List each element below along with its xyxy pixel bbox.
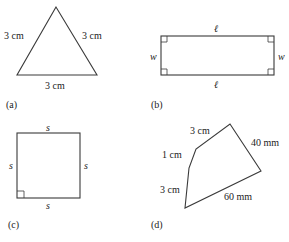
right-angle-icon <box>17 191 24 198</box>
triangle-shape <box>17 7 97 75</box>
caption-b: (b) <box>151 99 163 111</box>
pentagon-top-left-label: 3 cm <box>190 125 210 136</box>
figure-d-pentagon: 3 cm 40 mm 1 cm 3 cm 60 mm (d) <box>151 124 279 231</box>
geometry-figures: 3 cm 3 cm 3 cm (a) ℓ ℓ w w (b) s s s s (… <box>0 0 289 242</box>
triangle-left-label: 3 cm <box>4 30 24 41</box>
rectangle-shape <box>161 36 274 75</box>
pentagon-left-upper-label: 1 cm <box>162 149 182 160</box>
triangle-right-label: 3 cm <box>82 30 102 41</box>
figure-b-rectangle: ℓ ℓ w w (b) <box>150 23 285 111</box>
caption-d: (d) <box>151 219 163 231</box>
rectangle-right-label: w <box>278 51 285 62</box>
rectangle-top-label: ℓ <box>214 23 218 34</box>
caption-a: (a) <box>6 99 17 111</box>
right-angle-marks <box>161 36 274 75</box>
rectangle-bottom-label: ℓ <box>214 79 218 90</box>
triangle-bottom-label: 3 cm <box>45 80 65 91</box>
pentagon-bottom-label: 60 mm <box>224 191 252 202</box>
pentagon-top-right-label: 40 mm <box>251 137 279 148</box>
pentagon-left-lower-label: 3 cm <box>160 184 180 195</box>
square-bottom-label: s <box>46 200 50 211</box>
figure-c-square: s s s s (c) <box>8 122 88 231</box>
caption-c: (c) <box>8 219 19 231</box>
figure-a-triangle: 3 cm 3 cm 3 cm (a) <box>4 7 102 111</box>
right-angle-icon <box>161 36 167 42</box>
square-left-label: s <box>9 160 13 171</box>
square-shape <box>17 133 80 198</box>
right-angle-icon <box>161 69 167 75</box>
right-angle-icon <box>268 69 274 75</box>
rectangle-left-label: w <box>150 51 157 62</box>
right-angle-icon <box>268 36 274 42</box>
square-right-label: s <box>84 160 88 171</box>
square-top-label: s <box>46 122 50 133</box>
